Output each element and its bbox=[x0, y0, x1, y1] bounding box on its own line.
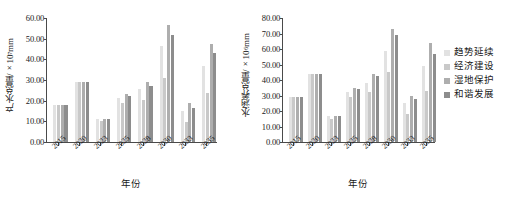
bar bbox=[384, 51, 387, 142]
y-tick-label: 50.00 bbox=[262, 60, 280, 70]
chart-panel-left: 产水总量/×107mm 0.0010.0020.0030.0040.0050.0… bbox=[0, 0, 236, 204]
y-tick-label: 60.00 bbox=[262, 44, 280, 54]
bar bbox=[138, 89, 141, 142]
y-tick-mark bbox=[280, 96, 283, 97]
y-tick-mark bbox=[280, 127, 283, 128]
bar-group bbox=[181, 18, 195, 142]
legend: 趋势延续经济建设湿地保护和谐发展 bbox=[444, 46, 518, 102]
bar-group bbox=[384, 18, 398, 142]
bar-group bbox=[138, 18, 152, 142]
bar-group bbox=[308, 18, 322, 142]
chart-panel-right: 水涵养总量/×106mm 0.0010.0020.0030.0040.0050.… bbox=[236, 0, 436, 204]
bar bbox=[414, 99, 417, 142]
y-tick-label: 60.00 bbox=[26, 13, 44, 23]
y-axis-ticks-left: 0.0010.0020.0030.0040.0050.0060.00 bbox=[12, 18, 46, 142]
bar bbox=[202, 66, 205, 142]
y-tick-mark bbox=[280, 65, 283, 66]
bar bbox=[213, 53, 216, 142]
x-axis-title-right: 年份 bbox=[282, 176, 434, 190]
bar bbox=[365, 83, 368, 142]
legend-item[interactable]: 和谐发展 bbox=[444, 88, 518, 102]
y-tick-label: 10.00 bbox=[26, 116, 44, 126]
bar bbox=[64, 105, 67, 142]
bar-group bbox=[75, 18, 89, 142]
y-tick-mark bbox=[44, 121, 47, 122]
legend-item[interactable]: 湿地保护 bbox=[444, 74, 518, 88]
bar bbox=[376, 76, 379, 142]
y-tick-label: 80.00 bbox=[262, 13, 280, 23]
bar bbox=[346, 92, 349, 142]
x-axis-ticks-right: 20152020202320252028203020332035 bbox=[282, 144, 434, 174]
bar bbox=[53, 105, 56, 142]
bar bbox=[391, 29, 394, 142]
bar bbox=[163, 78, 166, 142]
y-tick-mark bbox=[44, 59, 47, 60]
bar bbox=[86, 82, 89, 142]
y-tick-mark bbox=[280, 34, 283, 35]
bar bbox=[395, 35, 398, 142]
bar bbox=[210, 44, 213, 142]
bar bbox=[78, 82, 81, 142]
bar-group bbox=[53, 18, 67, 142]
y-tick-mark bbox=[280, 111, 283, 112]
y-tick-mark bbox=[44, 18, 47, 19]
y-tick-label: 20.00 bbox=[262, 106, 280, 116]
bar-group bbox=[289, 18, 303, 142]
bar bbox=[160, 46, 163, 142]
bar-group bbox=[96, 18, 110, 142]
bar bbox=[167, 25, 170, 142]
figure-root: 产水总量/×107mm 0.0010.0020.0030.0040.0050.0… bbox=[0, 0, 518, 204]
y-tick-label: 0.00 bbox=[30, 137, 44, 147]
y-tick-label: 70.00 bbox=[262, 29, 280, 39]
bar bbox=[308, 74, 311, 142]
bar bbox=[319, 74, 322, 142]
bar-group bbox=[422, 18, 436, 142]
bar bbox=[289, 97, 292, 142]
bar bbox=[149, 86, 152, 142]
bar bbox=[422, 66, 425, 142]
y-tick-label: 40.00 bbox=[262, 75, 280, 85]
legend-swatch-icon bbox=[444, 64, 450, 70]
legend-item-label: 湿地保护 bbox=[454, 76, 494, 86]
y-axis-ticks-right: 0.0010.0020.0030.0040.0050.0060.0070.008… bbox=[248, 18, 282, 142]
legend-item[interactable]: 趋势延续 bbox=[444, 46, 518, 60]
legend-item-label: 经济建设 bbox=[454, 62, 494, 72]
bar bbox=[300, 97, 303, 142]
bar-group bbox=[365, 18, 379, 142]
bar bbox=[117, 98, 120, 142]
y-tick-mark bbox=[44, 142, 47, 143]
legend-swatch-icon bbox=[444, 92, 450, 98]
y-tick-label: 30.00 bbox=[26, 75, 44, 85]
bar-group bbox=[160, 18, 174, 142]
y-tick-mark bbox=[44, 80, 47, 81]
legend-swatch-icon bbox=[444, 50, 450, 56]
x-axis-ticks-left: 20152020202320252028203020332035 bbox=[46, 144, 216, 174]
y-tick-mark bbox=[44, 39, 47, 40]
y-tick-label: 40.00 bbox=[26, 54, 44, 64]
y-tick-mark bbox=[44, 101, 47, 102]
y-tick-label: 10.00 bbox=[262, 122, 280, 132]
bar bbox=[311, 74, 314, 142]
bar bbox=[387, 72, 390, 142]
y-tick-mark bbox=[280, 18, 283, 19]
y-tick-mark bbox=[280, 80, 283, 81]
bar-group bbox=[202, 18, 216, 142]
y-tick-label: 30.00 bbox=[262, 91, 280, 101]
bar bbox=[128, 96, 131, 143]
bar bbox=[403, 103, 406, 142]
bar-group bbox=[117, 18, 131, 142]
bar bbox=[192, 108, 195, 142]
bar bbox=[372, 74, 375, 142]
bar-group bbox=[403, 18, 417, 142]
legend-item-label: 趋势延续 bbox=[454, 48, 494, 58]
y-tick-mark bbox=[280, 142, 283, 143]
y-tick-label: 20.00 bbox=[26, 96, 44, 106]
y-tick-label: 50.00 bbox=[26, 34, 44, 44]
legend-swatch-icon bbox=[444, 78, 450, 84]
bar bbox=[75, 82, 78, 142]
bar bbox=[171, 35, 174, 142]
bar bbox=[433, 54, 436, 142]
bar-group bbox=[327, 18, 341, 142]
bar-group bbox=[346, 18, 360, 142]
legend-item[interactable]: 经济建设 bbox=[444, 60, 518, 74]
